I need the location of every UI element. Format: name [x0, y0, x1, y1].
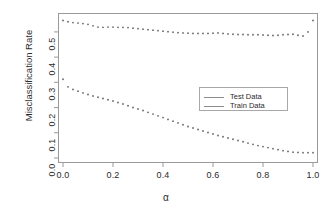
x-axis-title: α [0, 192, 332, 203]
chart-legend: Test Data Train Data [199, 87, 288, 111]
legend-label: Train Data [230, 102, 265, 110]
chart-screenshot: Misclassification Rate 0.00.10.20.30.40.… [0, 0, 332, 213]
legend-line-icon [204, 106, 224, 107]
legend-line-icon [204, 97, 224, 98]
legend-label: Test Data [230, 93, 262, 101]
legend-entry-train-data: Train Data [204, 101, 265, 111]
